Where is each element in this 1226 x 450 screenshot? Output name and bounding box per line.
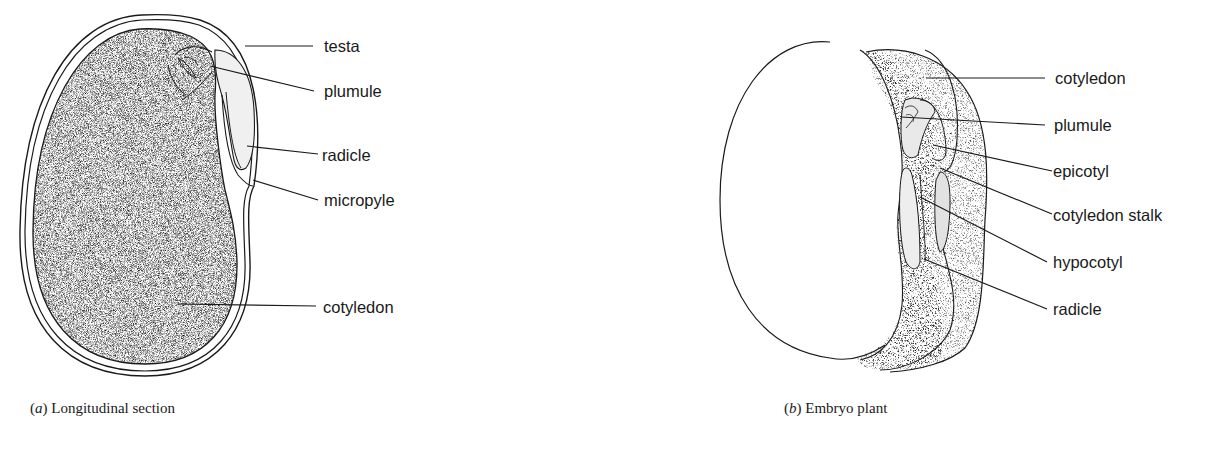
label-cotyledon-stalk: cotyledon stalk	[1053, 207, 1162, 224]
label-cotyledon-b: cotyledon	[1055, 70, 1126, 87]
label-hypocotyl: hypocotyl	[1053, 254, 1123, 271]
label-plumule: plumule	[324, 83, 382, 100]
label-radicle-b: radicle	[1053, 301, 1102, 318]
diagram-drawing	[0, 0, 1226, 450]
caption-embryo-plant: (b) Embryo plant	[784, 400, 887, 417]
label-testa: testa	[324, 38, 360, 55]
embryo-plant-drawing	[720, 42, 1052, 372]
label-epicotyl: epicotyl	[1053, 163, 1109, 180]
seed-diagram: testa plumule radicle micropyle cotyledo…	[0, 0, 1226, 450]
caption-longitudinal-section: (a) Longitudinal section	[30, 400, 175, 417]
label-radicle: radicle	[322, 147, 371, 164]
longitudinal-section-drawing	[20, 15, 318, 376]
label-micropyle: micropyle	[324, 192, 395, 209]
label-cotyledon: cotyledon	[323, 299, 394, 316]
label-plumule-b: plumule	[1054, 117, 1112, 134]
